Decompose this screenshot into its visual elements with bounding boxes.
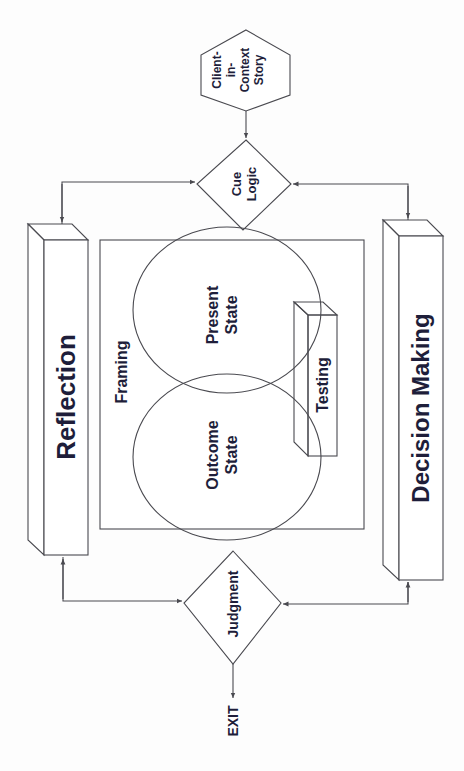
connector-reflection-to-judgment	[63, 557, 182, 601]
outcome-state-line2: State	[223, 435, 240, 474]
client-story-node: Client- in- Context Story	[201, 30, 290, 111]
testing-label: Testing	[314, 357, 331, 413]
cue-logic-line1: Cue	[229, 172, 244, 197]
reflection-label: Reflection	[51, 334, 81, 460]
client-story-line4: Story	[252, 54, 266, 85]
cue-logic-line2: Logic	[244, 167, 259, 202]
reflection-node: Reflection	[28, 224, 88, 555]
judgment-label: Judgment	[225, 570, 241, 637]
exit-label: EXIT	[225, 705, 241, 737]
framing-label: Framing	[113, 340, 130, 403]
judgment-node: Judgment	[184, 551, 281, 664]
present-state-line2: State	[223, 295, 240, 334]
client-story-line2: in-	[224, 63, 238, 78]
outcome-state-line1: Outcome	[204, 420, 221, 489]
decision-making-node: Decision Making	[383, 220, 443, 580]
client-story-line1: Client-	[210, 51, 224, 88]
present-state-line1: Present	[204, 285, 221, 344]
cue-logic-node: Cue Logic	[197, 140, 291, 230]
clinical-reasoning-diagram: Client- in- Context Story Cue Logic Refl…	[0, 0, 464, 771]
client-story-line3: Context	[238, 48, 252, 93]
connector-reflection-to-cue	[62, 182, 195, 224]
decision-making-label: Decision Making	[407, 313, 434, 502]
connector-decision-to-judgment	[283, 582, 408, 604]
connector-decision-to-cue	[293, 184, 408, 220]
